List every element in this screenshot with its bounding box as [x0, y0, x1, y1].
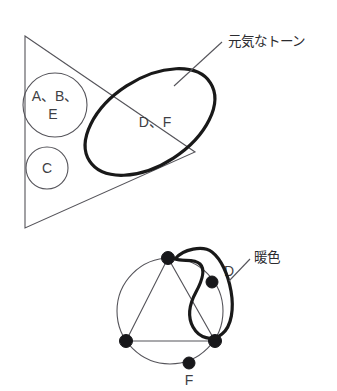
group-circle-c-label: C: [42, 160, 52, 176]
callout-genki-tone-label: 元気なトーン: [228, 33, 305, 49]
group-circle-abe-shape: [23, 73, 87, 137]
wheel-vertex-top: [162, 252, 175, 265]
highlight-ellipse-label: D、F: [139, 114, 172, 130]
callout-genki-tone: 元気なトーン: [174, 33, 305, 86]
callout-warm-color-label: 暖色: [254, 249, 280, 265]
diagram-root: A、B、 E C D、F 元気なトーン D F: [0, 0, 337, 391]
figure-canvas: A、B、 E C D、F 元気なトーン D F: [0, 0, 337, 391]
wheel-label-f: F: [185, 372, 194, 388]
callout-genki-tone-leader: [174, 42, 222, 86]
wheel-vertex-bottom-left: [120, 335, 133, 348]
warm-color-blob: [175, 248, 232, 338]
callout-warm-color: 暖色: [229, 249, 280, 281]
group-circle-c: C: [26, 147, 68, 189]
wheel-point-f: [183, 357, 195, 369]
highlight-ellipse: D、F: [66, 47, 234, 198]
upper-triangle: [25, 36, 195, 228]
warm-color-blob-shape: [175, 248, 232, 338]
group-circle-abe-label-line2: E: [48, 106, 57, 122]
group-circle-abe: A、B、 E: [23, 73, 87, 137]
group-circle-abe-label-line1: A、B、: [32, 88, 79, 104]
color-wheel: D F: [117, 252, 234, 389]
wheel-point-d: [206, 276, 218, 288]
triangle-outline: [25, 36, 195, 228]
color-wheel-circle: [117, 258, 223, 364]
